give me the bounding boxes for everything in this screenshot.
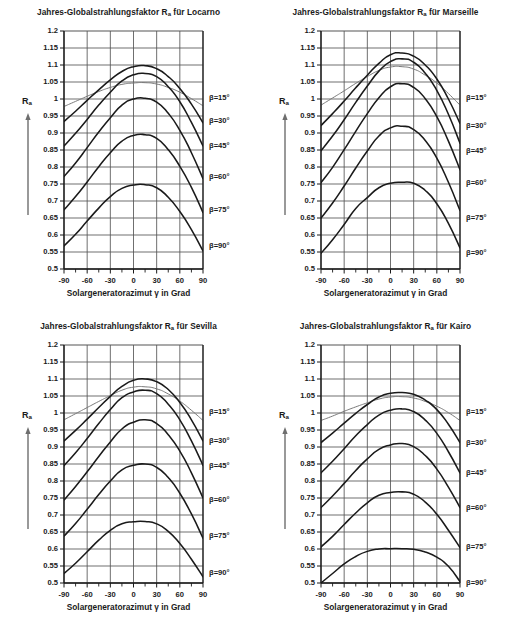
y-tick-label: 1.2: [20, 340, 58, 349]
series-label-beta-60: β=60°: [466, 178, 487, 187]
series-label-beta-75: β=75°: [466, 542, 487, 551]
y-tick-label: 0.85: [20, 459, 58, 468]
y-tick-label: 0.75: [20, 179, 58, 188]
x-axis-title: Solargeneratorazimut γ in Grad: [0, 602, 257, 612]
chart-panel-locarno: Jahres-Globalstrahlungsfaktor Ra für Loc…: [0, 0, 257, 314]
y-tick-label: 0.75: [277, 493, 315, 502]
x-tick-label: -30: [354, 276, 380, 285]
y-tick-label: 1.1: [277, 374, 315, 383]
y-tick-label: 0.55: [20, 561, 58, 570]
y-tick-label: 1.2: [277, 340, 315, 349]
x-tick-label: -90: [51, 590, 77, 599]
x-tick-label: -60: [74, 590, 100, 599]
y-tick-label: 0.5: [20, 264, 58, 273]
y-tick-label: 0.9: [277, 442, 315, 451]
series-label-beta-90: β=90°: [209, 241, 230, 250]
x-tick-label: 90: [447, 590, 473, 599]
y-tick-label: 1: [277, 408, 315, 417]
chart-panel-marseille: Jahres-Globalstrahlungsfaktor Ra für Mar…: [257, 0, 514, 314]
y-tick-label: 0.55: [277, 561, 315, 570]
gridlines: [321, 345, 460, 583]
x-tick-label: -90: [308, 590, 334, 599]
y-tick-label: 0.95: [20, 425, 58, 434]
y-tick-label: 0.5: [20, 578, 58, 587]
series-label-beta-30: β=30°: [209, 436, 230, 445]
y-tick-label: 0.8: [20, 162, 58, 171]
series-label-beta-60: β=60°: [466, 503, 487, 512]
y-tick-label: 1.1: [20, 374, 58, 383]
y-tick-label: 0.65: [20, 213, 58, 222]
y-tick-label: 1.15: [20, 357, 58, 366]
series-label-beta-45: β=45°: [466, 468, 487, 477]
y-tick-label: 0.7: [277, 196, 315, 205]
x-tick-label: -30: [97, 276, 123, 285]
series-label-beta-45: β=45°: [209, 461, 230, 470]
x-tick-label: 0: [378, 590, 404, 599]
y-tick-label: 1.2: [277, 26, 315, 35]
y-tick-label: 0.5: [277, 578, 315, 587]
x-tick-label: -30: [97, 590, 123, 599]
series-label-beta-60: β=60°: [209, 495, 230, 504]
y-tick-label: 0.55: [277, 247, 315, 256]
y-tick-label: 0.95: [20, 111, 58, 120]
x-tick-label: 60: [167, 276, 193, 285]
x-tick-label: 30: [144, 590, 170, 599]
series-label-beta-75: β=75°: [209, 531, 230, 540]
figure-root: Jahres-Globalstrahlungsfaktor Ra für Loc…: [0, 0, 514, 629]
y-tick-label: 1.15: [277, 357, 315, 366]
x-tick-label: -60: [331, 276, 357, 285]
y-tick-label: 0.75: [277, 179, 315, 188]
series-label-beta-45: β=45°: [209, 141, 230, 150]
y-tick-label: 0.6: [277, 230, 315, 239]
series-label-beta-30: β=30°: [466, 438, 487, 447]
x-tick-label: -60: [74, 276, 100, 285]
y-tick-label: 1.1: [20, 60, 58, 69]
series-label-beta-15: β=15°: [466, 407, 487, 416]
y-tick-label: 0.5: [277, 264, 315, 273]
y-tick-label: 1: [277, 94, 315, 103]
y-tick-label: 0.95: [277, 111, 315, 120]
y-tick-label: 0.8: [277, 476, 315, 485]
y-tick-label: 0.85: [277, 145, 315, 154]
y-tick-label: 0.75: [20, 493, 58, 502]
y-tick-label: 0.7: [20, 196, 58, 205]
x-tick-label: 90: [447, 276, 473, 285]
series-label-beta-75: β=75°: [466, 213, 487, 222]
x-tick-label: 90: [190, 590, 216, 599]
y-tick-label: 1.05: [20, 391, 58, 400]
x-tick-label: -60: [331, 590, 357, 599]
x-tick-label: 0: [121, 276, 147, 285]
y-tick-label: 0.9: [20, 442, 58, 451]
series-label-beta-15: β=15°: [466, 93, 487, 102]
y-tick-label: 0.65: [277, 527, 315, 536]
y-tick-label: 0.6: [20, 544, 58, 553]
series-label-beta-15: β=15°: [209, 407, 230, 416]
series-label-beta-60: β=60°: [209, 172, 230, 181]
chart-panel-sevilla: Jahres-Globalstrahlungsfaktor Ra für Sev…: [0, 314, 257, 628]
y-tick-label: 1.15: [20, 43, 58, 52]
series-label-beta-75: β=75°: [209, 205, 230, 214]
x-tick-label: 60: [167, 590, 193, 599]
x-tick-label: 30: [144, 276, 170, 285]
x-axis-title: Solargeneratorazimut γ in Grad: [257, 288, 514, 298]
y-tick-label: 0.85: [277, 459, 315, 468]
y-tick-label: 0.8: [277, 162, 315, 171]
chart-panel-kairo: Jahres-Globalstrahlungsfaktor Ra für Kai…: [257, 314, 514, 628]
x-tick-label: -30: [354, 590, 380, 599]
x-axis-title: Solargeneratorazimut γ in Grad: [0, 288, 257, 298]
y-tick-label: 1.15: [277, 43, 315, 52]
y-tick-label: 0.6: [277, 544, 315, 553]
y-tick-label: 0.7: [277, 510, 315, 519]
y-tick-label: 0.65: [277, 213, 315, 222]
y-tick-label: 1.05: [20, 77, 58, 86]
x-tick-label: -90: [308, 276, 334, 285]
x-tick-label: 0: [378, 276, 404, 285]
y-tick-label: 0.95: [277, 425, 315, 434]
y-tick-label: 0.55: [20, 247, 58, 256]
series-label-beta-90: β=90°: [209, 568, 230, 577]
y-tick-label: 0.9: [20, 128, 58, 137]
y-tick-label: 0.85: [20, 145, 58, 154]
y-tick-label: 0.6: [20, 230, 58, 239]
y-tick-label: 1: [20, 94, 58, 103]
y-tick-label: 1.05: [277, 391, 315, 400]
